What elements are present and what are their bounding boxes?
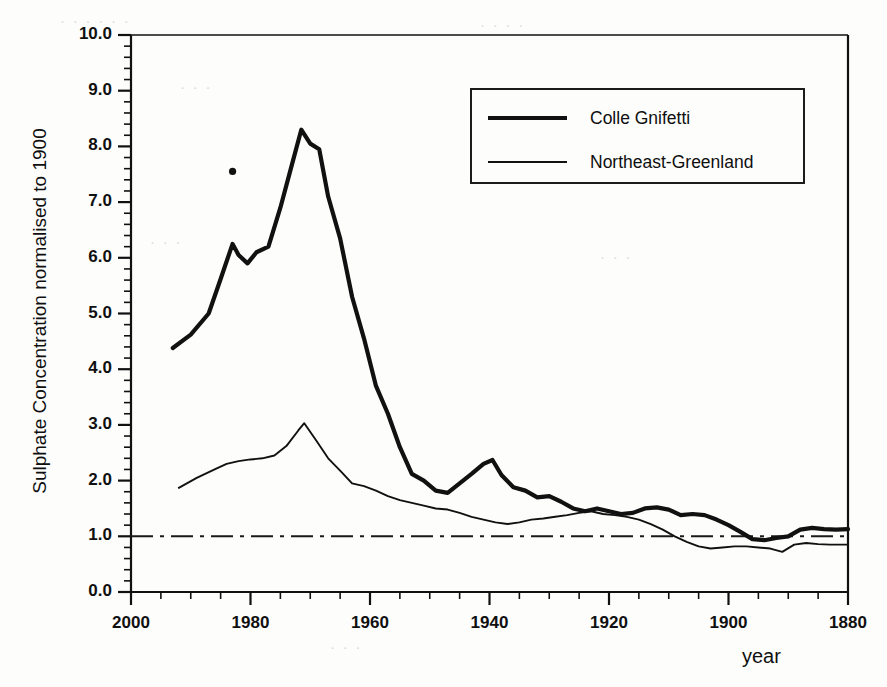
y-axis-title: Sulphate Concentration normalised to 190… (29, 101, 51, 521)
y-tick-label-6.0: 6.0 (66, 247, 112, 267)
x-tick-label-2000: 2000 (96, 613, 166, 633)
y-axis-ticks (118, 35, 131, 592)
y-tick-label-4.0: 4.0 (66, 358, 112, 378)
chart-page: · · · · · · · · · · · · · · · · · · · · … (0, 0, 887, 687)
x-tick-label-1940: 1940 (455, 613, 525, 633)
y-tick-label-0.0: 0.0 (66, 581, 112, 601)
legend-label-northeast-greenland: Northeast-Greenland (590, 152, 753, 173)
y-tick-label-2.0: 2.0 (66, 470, 112, 490)
x-tick-label-1900: 1900 (694, 613, 764, 633)
x-tick-label-1880: 1880 (813, 613, 883, 633)
x-tick-label-1920: 1920 (574, 613, 644, 633)
y-tick-label-9.0: 9.0 (66, 80, 112, 100)
y-tick-label-5.0: 5.0 (66, 303, 112, 323)
isolated-marker-dot (229, 168, 236, 175)
y-tick-label-7.0: 7.0 (66, 191, 112, 211)
x-tick-label-1960: 1960 (335, 613, 405, 633)
y-tick-label-10.0: 10.0 (66, 24, 112, 44)
x-axis-title: year (742, 645, 781, 668)
y-tick-label-8.0: 8.0 (66, 135, 112, 155)
y-tick-label-3.0: 3.0 (66, 414, 112, 434)
x-tick-label-1980: 1980 (216, 613, 286, 633)
series-colle-gnifetti (173, 130, 848, 541)
x-axis-ticks (131, 592, 848, 605)
legend-label-colle-gnifetti: Colle Gnifetti (590, 108, 690, 129)
sulphate-concentration-chart (0, 0, 887, 687)
y-tick-label-1.0: 1.0 (66, 525, 112, 545)
